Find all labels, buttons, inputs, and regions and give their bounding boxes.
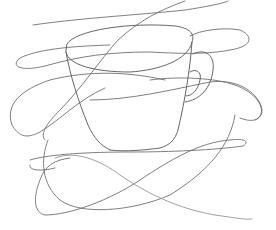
cup-rim: [66, 25, 193, 72]
coffee-cup: [66, 25, 213, 151]
scribbles: [10, 1, 262, 219]
sketch-canvas: [0, 0, 276, 230]
cup-handle-outer: [185, 52, 213, 102]
coffee-cup-sketch: [0, 0, 276, 230]
cup-left-side: [66, 52, 110, 150]
